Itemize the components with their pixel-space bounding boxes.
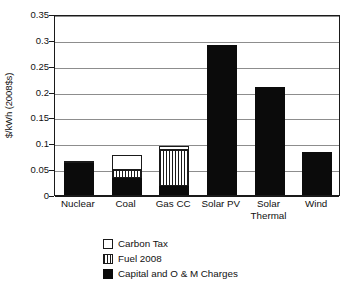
bar-group[interactable] [255,14,285,195]
bar-group[interactable] [207,14,237,195]
legend-item[interactable]: Capital and O & M Charges [103,266,238,281]
x-axis-tick-label-line: Thermal [245,210,293,222]
bars-layer [55,16,339,195]
bar-group[interactable] [64,14,94,195]
y-axis-tick-mark [49,15,54,16]
y-axis-tick-label: 0.15 [31,113,50,123]
bar-segment-fuel-2008[interactable] [112,170,142,178]
x-axis-tick-labels: NuclearCoalGas CCSolar PVSolarThermalWin… [54,198,340,232]
bar-segment-capital-om[interactable] [112,178,142,195]
x-axis-tick-label: Wind [292,198,340,210]
y-axis-tick-mark [49,196,54,197]
x-axis-tick-label-line: Solar [245,198,293,210]
x-axis-tick-label-line: Solar PV [197,198,245,210]
y-axis-tick-mark [49,93,54,94]
x-axis-tick-label: SolarThermal [245,198,293,221]
gridline [55,196,339,197]
y-axis-tick-mark [49,67,54,68]
legend-item-label: Capital and O & M Charges [118,268,238,279]
legend-item-label: Fuel 2008 [118,253,162,264]
bar-segment-fuel-2008[interactable] [64,161,94,163]
x-axis-tick-label-line: Nuclear [54,198,102,210]
legend-item-label: Carbon Tax [118,238,168,249]
y-axis-tick-label: 0.2 [36,88,49,98]
y-axis-tick-label: 0.3 [36,36,49,46]
legend-item[interactable]: Carbon Tax [103,236,238,251]
bar-segment-capital-om[interactable] [255,87,285,195]
y-axis-tick-mark [49,118,54,119]
levelized-cost-bar-chart: $/kWh (2008$s) 00.050.10.150.20.250.30.3… [0,0,356,296]
x-axis-tick-label: Solar PV [197,198,245,210]
bar-group[interactable] [302,14,332,195]
capital-om-swatch [103,269,113,279]
x-axis-tick-label-line: Gas CC [149,198,197,210]
y-axis-tick-label: 0.35 [31,10,50,20]
bar-segment-fuel-2008[interactable] [159,150,189,186]
bar-segment-capital-om[interactable] [302,152,332,195]
y-axis-title-text: $/kWh (2008$s) [4,72,15,138]
bar-segment-capital-om[interactable] [159,186,189,195]
y-axis-tick-labels: 00.050.10.150.20.250.30.35 [16,15,52,196]
y-axis-tick-label: 0.25 [31,62,50,72]
bar-group[interactable] [159,14,189,195]
bar-group[interactable] [112,14,142,195]
y-axis-tick-mark [49,170,54,171]
legend: Carbon TaxFuel 2008Capital and O & M Cha… [103,236,238,281]
y-axis-tick-mark [49,144,54,145]
y-axis-tick-mark [49,41,54,42]
x-axis-tick-label-line: Wind [292,198,340,210]
x-axis-tick-label: Coal [102,198,150,210]
plot-area [54,15,340,196]
y-axis-tick-label: 0.05 [31,165,50,175]
bar-segment-capital-om[interactable] [207,45,237,195]
carbon-tax-swatch [103,239,113,249]
x-axis-tick-label: Gas CC [149,198,197,210]
bar-segment-carbon-tax[interactable] [112,155,142,171]
y-axis-tick-label: 0.1 [36,139,49,149]
bar-segment-capital-om[interactable] [64,163,94,195]
x-axis-tick-label: Nuclear [54,198,102,210]
legend-item[interactable]: Fuel 2008 [103,251,238,266]
fuel-2008-swatch [103,254,113,264]
bar-segment-carbon-tax[interactable] [159,146,189,150]
x-axis-tick-label-line: Coal [102,198,150,210]
